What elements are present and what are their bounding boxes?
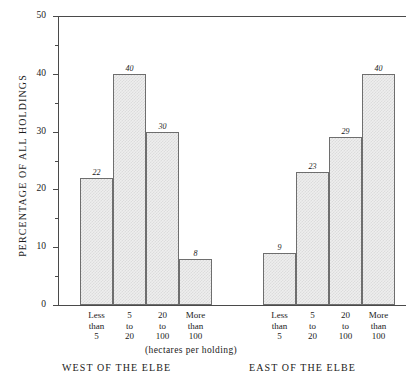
bar-value-east-2: 29 [342, 127, 350, 136]
y-ticklabel-10: 10 [37, 242, 47, 252]
xtick-label-east-1: 5 to 20 [296, 310, 329, 342]
y-tick-50: 50 [53, 16, 58, 17]
xtick-label-west-0: Less than 5 [80, 310, 113, 342]
y-ticklabel-30: 30 [37, 127, 47, 137]
group-label-west: WEST OF THE ELBE [62, 362, 171, 373]
bar-value-west-2: 30 [159, 122, 167, 131]
bar-chart-figure: PERCENTAGE OF ALL HOLDINGS 0 10 20 30 40… [0, 0, 410, 385]
y-minortick-25 [55, 161, 58, 162]
y-ticklabel-40: 40 [37, 69, 47, 79]
y-tick-0: 0 [53, 305, 58, 306]
bar-east-20-to-100: 29 [329, 137, 362, 305]
y-minortick-35 [55, 103, 58, 104]
y-minortick-5 [55, 276, 58, 277]
bar-value-west-0: 22 [93, 168, 101, 177]
y-ticklabel-0: 0 [41, 300, 46, 310]
bar-west-5-to-20: 40 [113, 74, 146, 305]
x-axis-line [58, 305, 406, 306]
plot-area: 0 10 20 30 40 50 22 40 30 [58, 16, 406, 306]
bar-west-more-than-100: 8 [179, 259, 212, 305]
plot-top-border [58, 16, 406, 17]
y-tick-30: 30 [53, 132, 58, 133]
bar-value-west-1: 40 [126, 64, 134, 73]
bar-east-less-than-5: 9 [263, 253, 296, 305]
y-tick-40: 40 [53, 74, 58, 75]
xtick-label-east-2: 20 to 100 [329, 310, 362, 342]
y-ticklabel-50: 50 [37, 11, 47, 21]
xtick-label-west-3: More than 100 [179, 310, 212, 342]
bar-value-west-3: 8 [194, 249, 198, 258]
y-tick-20: 20 [53, 189, 58, 190]
bar-west-20-to-100: 30 [146, 132, 179, 305]
y-minortick-15 [55, 218, 58, 219]
y-ticklabel-20: 20 [37, 185, 47, 195]
x-axis-units-caption: (hectares per holding) [145, 345, 237, 355]
xtick-label-west-2: 20 to 100 [146, 310, 179, 342]
bar-west-less-than-5: 22 [80, 178, 113, 305]
bar-value-east-0: 9 [278, 243, 282, 252]
y-axis-line [58, 16, 59, 306]
bar-value-east-3: 40 [375, 64, 383, 73]
bar-east-5-to-20: 23 [296, 172, 329, 305]
bar-east-more-than-100: 40 [362, 74, 395, 305]
bar-value-east-1: 23 [309, 162, 317, 171]
y-tick-10: 10 [53, 247, 58, 248]
y-minortick-45 [55, 45, 58, 46]
xtick-label-east-3: More than 100 [362, 310, 395, 342]
group-label-east: EAST OF THE ELBE [249, 362, 356, 373]
xtick-label-east-0: Less than 5 [263, 310, 296, 342]
y-axis-title: PERCENTAGE OF ALL HOLDINGS [17, 41, 28, 291]
xtick-label-west-1: 5 to 20 [113, 310, 146, 342]
